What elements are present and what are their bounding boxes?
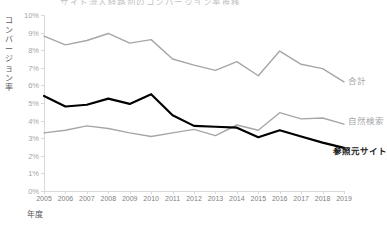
y-axis-tick-label: 7% (28, 63, 39, 72)
x-axis-tick-label: 2013 (208, 195, 224, 202)
chart-title: サイト流入経路別のコンバージョン率推移 (60, 0, 300, 5)
x-axis-title: 年度 (27, 208, 43, 219)
x-axis-tick-label: 2008 (100, 195, 116, 202)
x-axis-tick (323, 191, 324, 194)
x-axis-tick-label: 2006 (58, 195, 74, 202)
y-axis-tick-label: 10% (24, 11, 39, 20)
x-axis-tick (280, 191, 281, 194)
x-axis-tick-label: 2016 (272, 195, 288, 202)
y-axis-tick-label: 5% (28, 99, 39, 108)
plot-area: 0%1%2%3%4%5%6%7%8%9%10% (44, 15, 344, 191)
x-axis-tick (87, 191, 88, 194)
x-axis-tick-label: 2007 (79, 195, 95, 202)
series-lines (44, 15, 344, 191)
y-axis-tick-label: 3% (28, 134, 39, 143)
x-axis-tick-label: 2018 (315, 195, 331, 202)
x-axis-tick (194, 191, 195, 194)
series-line-合計 (44, 33, 344, 81)
x-axis-tick (258, 191, 259, 194)
y-axis-tick-label: 4% (28, 116, 39, 125)
x-axis-tick (173, 191, 174, 194)
x-axis-tick-label: 2010 (143, 195, 159, 202)
x-axis-tick (237, 191, 238, 194)
conversion-rate-line-chart: サイト流入経路別のコンバージョン率推移 コンバージョン率 0%1%2%3%4%5… (0, 0, 387, 228)
y-axis-tick-label: 8% (28, 46, 39, 55)
x-axis-tick (215, 191, 216, 194)
series-label-organic-search: 自然検索 (348, 114, 384, 126)
x-axis-tick (301, 191, 302, 194)
x-axis-tick (344, 191, 345, 194)
x-axis-tick (151, 191, 152, 194)
x-axis-tick-label: 2005 (36, 195, 52, 202)
series-label-total: 合計 (348, 74, 366, 86)
x-axis-tick-label: 2019 (336, 195, 352, 202)
series-line-参照元サイト (44, 94, 344, 148)
x-axis-tick (65, 191, 66, 194)
x-axis-tick-label: 2009 (122, 195, 138, 202)
x-axis-tick (130, 191, 131, 194)
x-axis-tick-label: 2012 (186, 195, 202, 202)
y-axis-tick-label: 2% (28, 151, 39, 160)
x-axis-tick-label: 2015 (250, 195, 266, 202)
y-axis-tick-label: 1% (28, 169, 39, 178)
y-axis-tick-label: 9% (28, 28, 39, 37)
y-axis-tick-label: 6% (28, 81, 39, 90)
x-axis-tick-label: 2014 (229, 195, 245, 202)
x-axis-tick (108, 191, 109, 194)
x-axis-tick-label: 2017 (293, 195, 309, 202)
x-axis-tick-label: 2011 (165, 195, 180, 202)
series-line-自然検索 (44, 113, 344, 137)
series-label-referral-sites: 参照元サイト (333, 144, 387, 156)
x-axis-tick (44, 191, 45, 194)
y-axis-title: コンバージョン率 (2, 16, 15, 93)
